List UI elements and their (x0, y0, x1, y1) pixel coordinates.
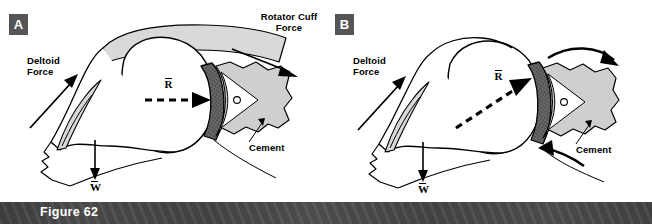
panel-a: A Rotator Cuff Force Deltoid Force Cemen… (0, 0, 326, 200)
resultant-symbol-a: R (164, 78, 173, 89)
panel-b: B Deltoid Force Cement R W (326, 0, 652, 200)
cement-label-b: Cement (576, 144, 626, 155)
panel-badge-b: B (335, 14, 354, 35)
weight-arrow-head-a (90, 168, 100, 180)
weight-symbol-a: W (90, 181, 99, 192)
figure-62-container: A Rotator Cuff Force Deltoid Force Cemen… (0, 0, 652, 224)
panel-badge-a: A (9, 14, 28, 35)
resultant-symbol-b: R (494, 70, 503, 81)
rotator-cuff-force-label: Rotator Cuff Force (252, 11, 326, 33)
humerus-lower-border-a (70, 158, 162, 186)
figure-caption-text: Figure 62 (40, 205, 98, 219)
weight-symbol-b: W (418, 183, 427, 194)
deltoid-force-label-b: Deltoid Force (353, 55, 407, 77)
deltoid-force-head-b (392, 76, 406, 90)
glenoid-marker-b (561, 99, 568, 106)
deltoid-force-label-a: Deltoid Force (27, 55, 81, 77)
panel-b-illustration (326, 0, 652, 200)
rotator-cuff-force-head-a (278, 66, 298, 77)
weight-arrow-head-b (418, 170, 428, 182)
humerus-lower-border-b (398, 160, 490, 188)
figure-caption-bar: Figure 62 (0, 202, 652, 224)
glenoid-marker-a (234, 97, 241, 104)
cement-label-a: Cement (249, 142, 299, 153)
